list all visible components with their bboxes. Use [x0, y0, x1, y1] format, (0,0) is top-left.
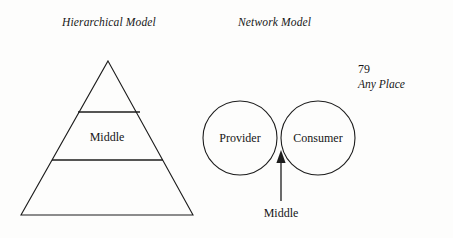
hierarchical-pyramid-group: Middle [21, 61, 193, 215]
network-middle-label: Middle [264, 206, 299, 220]
figure-page: Hierarchical Model Network Model 79 Any … [0, 0, 453, 238]
consumer-label: Consumer [293, 131, 342, 145]
pyramid-middle-label: Middle [90, 130, 125, 144]
network-circles-group: Provider Consumer Middle [203, 101, 355, 220]
diagrams-canvas: Middle Provider Consumer Middle [0, 0, 453, 238]
provider-label: Provider [219, 131, 260, 145]
